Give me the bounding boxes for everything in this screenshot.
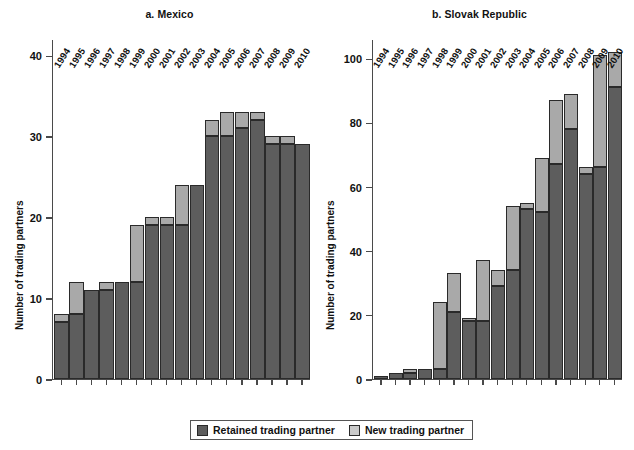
bar-segment-retained	[608, 87, 622, 379]
y-axis-tick	[366, 123, 372, 124]
x-axis-tick	[256, 380, 257, 385]
bar-segment-new	[506, 206, 520, 270]
y-axis-tick	[46, 298, 52, 299]
bar-segment-retained	[69, 314, 83, 379]
x-axis-tick	[482, 380, 483, 385]
bar-segment-retained	[235, 128, 249, 379]
bar-segment-new	[433, 302, 447, 369]
y-axis-tick	[366, 315, 372, 316]
bar-segment-retained	[115, 282, 129, 379]
bar-2004	[205, 120, 219, 379]
bar-segment-retained	[593, 167, 607, 379]
bar-2002	[491, 270, 505, 379]
x-axis-tick	[599, 380, 600, 385]
bar-segment-retained	[433, 369, 447, 379]
bar-segment-new	[160, 217, 174, 225]
bar-2003	[506, 206, 520, 379]
legend-label-new: New trading partner	[365, 424, 464, 436]
bar-segment-new	[491, 270, 505, 286]
bar-segment-retained	[564, 129, 578, 379]
x-axis-tick	[526, 380, 527, 385]
x-axis-tick	[585, 380, 586, 385]
panel-title-mexico: a. Mexico	[0, 8, 317, 20]
bar-segment-retained	[374, 376, 388, 379]
bar-2003	[190, 185, 204, 379]
y-axis-tick	[366, 59, 372, 60]
x-axis-tick	[439, 380, 440, 385]
bar-segment-retained	[403, 373, 417, 379]
panel-title-slovak: b. Slovak Republic	[317, 8, 634, 20]
legend-item-new: New trading partner	[349, 424, 464, 436]
bar-segment-new	[564, 94, 578, 129]
bar-2005	[535, 158, 549, 379]
bar-segment-retained	[145, 225, 159, 379]
bar-segment-retained	[295, 144, 309, 379]
legend-swatch-retained-icon	[197, 425, 208, 436]
bar-1996	[403, 369, 417, 379]
x-axis-tick	[424, 380, 425, 385]
bar-segment-new	[69, 282, 83, 314]
x-axis-tick	[286, 380, 287, 385]
bar-1996	[84, 290, 98, 379]
y-axis-tick-label: 20	[350, 310, 362, 322]
bar-segment-retained	[84, 290, 98, 379]
bar-segment-new	[476, 260, 490, 321]
x-axis-tick	[301, 380, 302, 385]
bar-1994	[374, 376, 388, 379]
bar-1997	[418, 369, 432, 379]
y-axis-tick-label: 40	[30, 50, 42, 62]
y-axis-tick	[46, 136, 52, 137]
bar-2006	[235, 112, 249, 379]
x-axis-tick	[61, 380, 62, 385]
bar-segment-new	[250, 112, 264, 120]
bar-1999	[130, 225, 144, 379]
plot-area-slovak: 0204060801001994199519961997199819992000…	[372, 40, 622, 380]
bar-1999	[447, 273, 461, 379]
x-axis-tick	[380, 380, 381, 385]
x-axis-tick	[91, 380, 92, 385]
y-axis-title-slovak: Number of trading partners	[325, 201, 336, 330]
legend-label-retained: Retained trading partner	[213, 424, 335, 436]
bar-segment-new	[280, 136, 294, 144]
x-axis-tick	[166, 380, 167, 385]
bar-segment-retained	[491, 286, 505, 379]
bar-2000	[462, 318, 476, 379]
x-axis-tick	[409, 380, 410, 385]
chart-panel-mexico: a. Mexico Number of trading partners 010…	[0, 0, 317, 412]
bar-segment-new	[220, 112, 234, 136]
x-axis-tick	[555, 380, 556, 385]
bar-segment-new	[403, 369, 417, 372]
bar-1995	[69, 282, 83, 379]
bar-segment-new	[462, 318, 476, 321]
bar-1995	[389, 373, 403, 379]
y-axis-tick	[46, 379, 52, 380]
legend-item-retained: Retained trading partner	[197, 424, 335, 436]
y-axis-tick	[366, 251, 372, 252]
y-axis-tick-label: 20	[30, 212, 42, 224]
bar-2007	[250, 112, 264, 379]
bar-segment-new	[579, 167, 593, 173]
bar-segment-retained	[579, 174, 593, 379]
bar-segment-retained	[506, 270, 520, 379]
x-axis-tick	[106, 380, 107, 385]
bar-2008	[579, 167, 593, 379]
y-axis-tick-label: 100	[344, 53, 362, 65]
bar-2007	[564, 94, 578, 379]
bar-segment-new	[99, 282, 113, 290]
bar-segment-new	[265, 136, 279, 144]
bar-2002	[175, 185, 189, 379]
bar-segment-retained	[99, 290, 113, 379]
bar-segment-new	[535, 158, 549, 213]
bar-segment-retained	[205, 136, 219, 379]
bar-segment-new	[520, 203, 534, 209]
bar-segment-retained	[280, 144, 294, 379]
bar-segment-retained	[54, 322, 68, 379]
bar-segment-retained	[250, 120, 264, 379]
y-axis-tick-label: 80	[350, 117, 362, 129]
bar-group-slovak	[373, 40, 622, 379]
x-axis-tick	[512, 380, 513, 385]
x-axis-tick	[196, 380, 197, 385]
x-axis-tick	[136, 380, 137, 385]
bar-segment-retained	[220, 136, 234, 379]
bar-group-mexico	[53, 40, 310, 379]
